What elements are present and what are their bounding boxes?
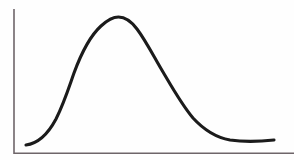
- plot-area: [0, 0, 294, 160]
- figure-container: [0, 0, 294, 160]
